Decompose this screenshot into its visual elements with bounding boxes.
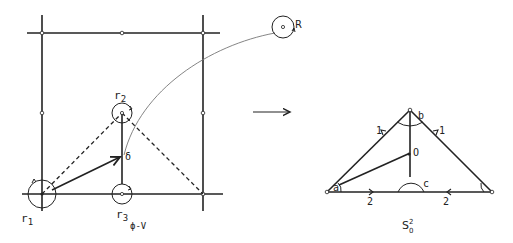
label-b: b [418, 111, 424, 121]
label-delta: δ [125, 152, 131, 162]
path-curve [124, 33, 275, 155]
label-r3: r3 [116, 209, 128, 223]
label-R: R [295, 20, 302, 30]
label-edge-right: 1 [439, 126, 445, 136]
label-a: a [333, 183, 339, 193]
label-r2: r2 [114, 90, 126, 104]
label-c: c [423, 179, 429, 189]
label-base-left: 2 [367, 197, 373, 207]
diagram-drawing [0, 0, 513, 243]
label-r1: r1 [21, 213, 33, 227]
label-O: O [413, 148, 419, 158]
label-base-right: 2 [443, 197, 449, 207]
sphere-triangle [327, 110, 492, 192]
caption-s2-0: S20 [402, 220, 409, 231]
label-phi-v: ϕ-V [130, 222, 146, 231]
diagram-canvas: r1 r2 r3 δ R ϕ-V a b c O 1 1 2 2 S20 [0, 0, 513, 243]
label-edge-left: 1 [376, 126, 382, 136]
